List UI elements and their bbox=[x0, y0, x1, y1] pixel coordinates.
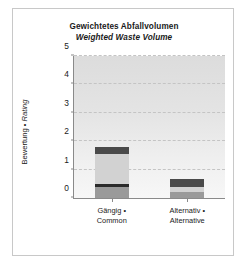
y-tick-label-1: 1 bbox=[64, 155, 69, 165]
y-tick-label-0: 0 bbox=[64, 183, 69, 193]
x-tick-mark-2 bbox=[187, 198, 188, 202]
bar-2[interactable] bbox=[170, 179, 204, 198]
y-tick-mark-5 bbox=[71, 55, 74, 56]
bar-1-segment-4 bbox=[95, 147, 129, 154]
y-tick-mark-0 bbox=[71, 197, 74, 198]
chart-title-german: Gewichtetes Abfallvolumen bbox=[13, 21, 235, 32]
gridline-y-5 bbox=[74, 55, 225, 56]
bar-1[interactable] bbox=[95, 147, 129, 198]
y-tick-label-2: 2 bbox=[64, 126, 69, 136]
bar-1-segment-3 bbox=[95, 154, 129, 184]
x-tick-mark-1 bbox=[112, 198, 113, 202]
x-axis-category-label-1-line1: Gängig • bbox=[97, 206, 127, 216]
x-axis-category-label-2: Alternativ •Alternative bbox=[170, 206, 205, 226]
y-axis-label-german: Bewertung • bbox=[20, 121, 29, 164]
x-axis-category-label-2-line2: Alternative bbox=[170, 216, 205, 226]
bar-1-segment-1 bbox=[95, 187, 129, 198]
bar-2-segment-3 bbox=[170, 179, 204, 187]
chart-title-english: Weighted Waste Volume bbox=[13, 32, 235, 43]
chart-title-block: Gewichtetes Abfallvolumen Weighted Waste… bbox=[13, 21, 235, 43]
y-tick-mark-3 bbox=[71, 111, 74, 112]
gridline-y-4 bbox=[74, 83, 225, 84]
gridline-y-3 bbox=[74, 112, 225, 113]
y-axis-label: Bewertung • Rating bbox=[20, 99, 29, 164]
y-tick-mark-2 bbox=[71, 140, 74, 141]
y-tick-mark-1 bbox=[71, 168, 74, 169]
y-tick-mark-4 bbox=[71, 83, 74, 84]
x-axis-category-label-1: Gängig •Common bbox=[97, 206, 127, 226]
chart-figure: Gewichtetes Abfallvolumen Weighted Waste… bbox=[12, 8, 234, 256]
y-tick-label-4: 4 bbox=[64, 69, 69, 79]
plot-area: 012345 Gängig •CommonAlternativ •Alterna… bbox=[73, 56, 225, 199]
x-axis-category-label-1-line2: Common bbox=[97, 216, 127, 226]
y-tick-label-3: 3 bbox=[64, 98, 69, 108]
y-tick-label-5: 5 bbox=[64, 41, 69, 51]
y-axis-label-container: Bewertung • Rating bbox=[17, 57, 31, 207]
gridline-y-2 bbox=[74, 140, 225, 141]
y-axis-label-english: Rating bbox=[20, 99, 29, 121]
x-axis-category-label-2-line1: Alternativ • bbox=[170, 206, 205, 216]
